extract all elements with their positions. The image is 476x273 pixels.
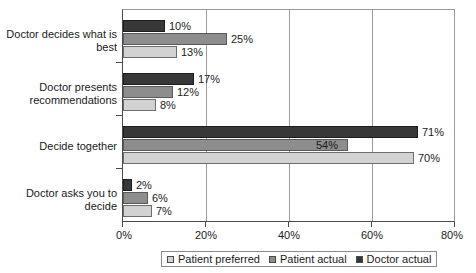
x-axis-tick: [454, 222, 455, 227]
bar-value: 13%: [181, 44, 203, 60]
bar-group-doctor-presents: 17% 12% 8%: [123, 63, 454, 116]
legend-swatch-icon: [269, 256, 276, 263]
bar-group-doctor-asks: 2% 6% 7%: [123, 169, 454, 222]
x-axis-tick-label: 40%: [278, 228, 300, 242]
bar-value: 2%: [136, 177, 152, 193]
bar-value: 7%: [156, 203, 172, 219]
legend-label: Doctor actual: [367, 253, 432, 266]
y-axis-tick: [116, 115, 122, 116]
bar-patient-preferred[interactable]: [123, 152, 414, 164]
x-axis-tick: [122, 222, 123, 227]
bar-group-doctor-decides: 10% 25% 13%: [123, 10, 454, 63]
y-axis-tick: [116, 168, 122, 169]
x-axis-tick: [371, 222, 372, 227]
x-axis-tick-label: 80%: [441, 228, 463, 242]
bar-value: 70%: [418, 150, 440, 166]
bar-group-decide-together: 71% 54% 70%: [123, 116, 454, 169]
bar-value: 8%: [160, 97, 176, 113]
legend-item-patient-actual[interactable]: Patient actual: [269, 253, 347, 266]
legend-label: Patient actual: [280, 253, 347, 266]
label-line: Decide together: [0, 140, 117, 153]
bar-value: 10%: [169, 18, 191, 34]
y-axis-label-decide-together: Decide together: [0, 140, 117, 153]
label-line: best: [0, 41, 117, 54]
label-line: Doctor decides what is: [0, 28, 117, 41]
y-axis-label-doctor-presents: Doctor presents recommendations: [0, 81, 117, 107]
bar-doctor-actual[interactable]: [123, 179, 132, 191]
x-axis-tick: [288, 222, 289, 227]
bar-patient-actual[interactable]: [123, 33, 227, 45]
label-line: Doctor presents: [0, 81, 117, 94]
y-axis-label-doctor-decides: Doctor decides what is best: [0, 28, 117, 54]
label-line: Doctor asks you to: [0, 187, 117, 200]
chart-legend: Patient preferred Patient actual Doctor …: [161, 251, 437, 267]
legend-item-doctor-actual[interactable]: Doctor actual: [356, 253, 432, 266]
bar-patient-actual[interactable]: [123, 139, 348, 151]
legend-swatch-icon: [356, 256, 363, 263]
bar-value: 54%: [316, 137, 338, 153]
bar-doctor-actual[interactable]: [123, 20, 165, 32]
y-axis-label-doctor-asks: Doctor asks you to decide: [0, 187, 117, 213]
legend-item-patient-preferred[interactable]: Patient preferred: [167, 253, 260, 266]
legend-swatch-icon: [167, 256, 174, 263]
x-axis-tick: [205, 222, 206, 227]
bar-value: 17%: [198, 71, 220, 87]
bar-value: 25%: [231, 31, 253, 47]
bar-chart: 10% 25% 13% 17% 12% 8%: [0, 0, 476, 273]
x-axis-tick-label: 0%: [116, 228, 132, 242]
bar-patient-preferred[interactable]: [123, 99, 156, 111]
x-axis-tick-label: 20%: [195, 228, 217, 242]
label-line: decide: [0, 200, 117, 213]
label-line: recommendations: [0, 94, 117, 107]
bar-value: 12%: [177, 84, 199, 100]
bar-patient-preferred[interactable]: [123, 46, 177, 58]
y-axis-tick: [116, 62, 122, 63]
plot-area: 10% 25% 13% 17% 12% 8%: [122, 9, 455, 222]
bar-value: 71%: [422, 124, 444, 140]
x-axis-tick-label: 60%: [361, 228, 383, 242]
bar-doctor-actual[interactable]: [123, 126, 418, 138]
bar-patient-preferred[interactable]: [123, 205, 152, 217]
legend-label: Patient preferred: [178, 253, 260, 266]
bar-patient-actual[interactable]: [123, 192, 148, 204]
